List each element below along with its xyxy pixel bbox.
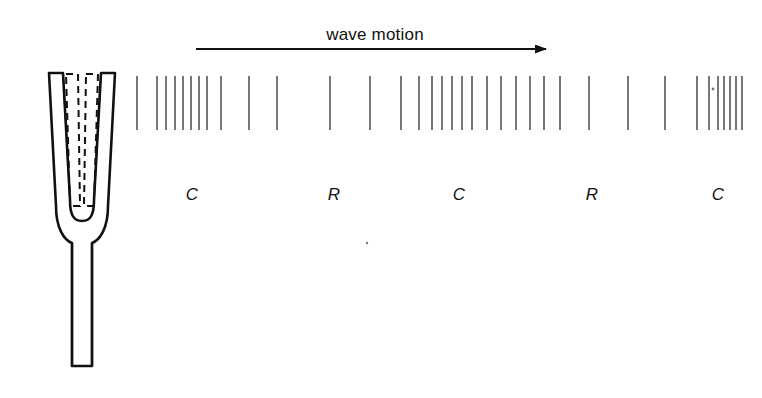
wave-motion-label: wave motion — [326, 25, 424, 45]
zone-label-rarefaction: R — [586, 185, 598, 205]
tuning-fork-vibration-dashed — [66, 74, 98, 206]
sound-wave-diagram: wave motion CRCRC — [0, 0, 762, 398]
tuning-fork-outline — [49, 73, 115, 366]
zone-label-compression: C — [453, 185, 465, 205]
stray-dot — [366, 242, 368, 244]
zone-label-compression: C — [186, 185, 198, 205]
tuning-fork — [49, 73, 115, 366]
stray-dot — [712, 88, 715, 91]
zone-label-compression: C — [712, 185, 724, 205]
stray-marks — [366, 88, 715, 245]
zone-label-rarefaction: R — [328, 185, 340, 205]
diagram-canvas — [0, 0, 762, 398]
compression-line-band — [137, 76, 742, 130]
